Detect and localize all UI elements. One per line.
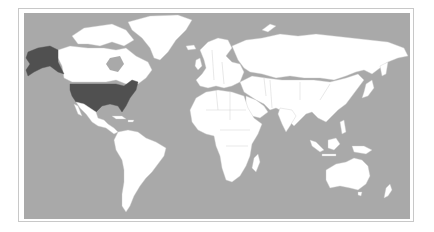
iceland[interactable] bbox=[186, 45, 196, 50]
world-map[interactable] bbox=[0, 0, 434, 232]
java[interactable] bbox=[322, 154, 336, 156]
hispaniola[interactable] bbox=[128, 120, 134, 122]
